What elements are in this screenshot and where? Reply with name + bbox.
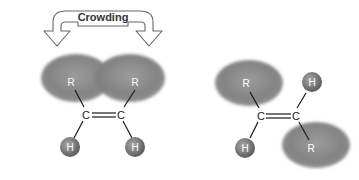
r-label: R xyxy=(67,77,74,88)
bond xyxy=(297,93,306,108)
h-label: H xyxy=(66,142,73,153)
carbon-label: C xyxy=(82,109,90,121)
h-label: H xyxy=(308,77,315,88)
crowding-arrow: Crowding xyxy=(44,11,162,46)
alkene-steric-diagram: Crowding R R C C H H R C C R H xyxy=(0,0,359,180)
bond xyxy=(250,122,258,138)
r-label: R xyxy=(131,77,138,88)
r-label: R xyxy=(307,143,314,154)
cis-isomer: R R C C H H xyxy=(41,54,165,157)
trans-isomer: R C C R H H xyxy=(215,60,350,168)
carbon-label: C xyxy=(292,110,300,122)
r-label: R xyxy=(242,78,249,89)
bond xyxy=(123,121,132,138)
carbon-label: C xyxy=(117,109,125,121)
r-group-cloud-lower xyxy=(282,122,350,168)
h-label: H xyxy=(131,142,138,153)
h-label: H xyxy=(241,143,248,154)
crowding-label: Crowding xyxy=(78,11,129,23)
r-group-cloud-right xyxy=(95,54,165,102)
carbon-label: C xyxy=(257,110,265,122)
bond xyxy=(74,121,83,138)
